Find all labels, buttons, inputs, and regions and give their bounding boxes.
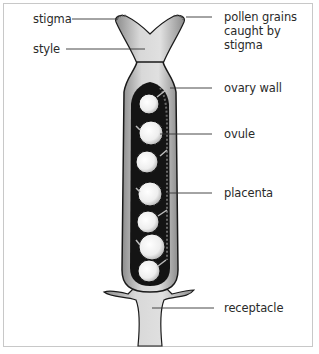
label-ovule: ovule [224,127,255,141]
label-receptacle: receptacle [224,301,283,315]
label-pollen-grains: pollen grains caught by stigma [224,10,319,52]
label-placenta: placenta [224,186,273,200]
receptacle-shape [104,288,194,346]
label-stigma: stigma [33,12,72,26]
label-style: style [33,42,60,56]
label-ovary-wall: ovary wall [224,81,282,95]
stigma-shape [116,15,185,66]
